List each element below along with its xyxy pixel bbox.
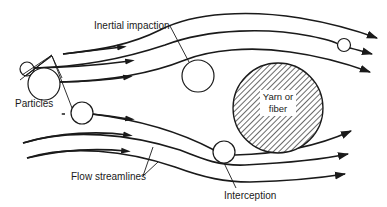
streamline-5-midarrow [23, 133, 128, 143]
label-interception: Interception [224, 190, 276, 201]
streamline-1-midarrow [63, 47, 122, 54]
fiber-label-line1: Yarn or [263, 91, 293, 102]
label-flow-streamlines: Flow streamlines [71, 171, 146, 182]
particle-large-left [28, 68, 60, 100]
particle-interception [213, 141, 235, 163]
streamline-2 [34, 31, 338, 68]
leader-interception [224, 163, 236, 188]
label-particles: Particles [15, 98, 53, 109]
particle-lower-left [71, 102, 93, 124]
fiber-label-line2: fiber [269, 103, 287, 114]
streamline-2-tail [350, 48, 372, 54]
label-inertial-impaction: Inertial impaction [94, 20, 170, 31]
streamline-3 [60, 49, 370, 82]
leader-inertial [170, 26, 189, 62]
particle-small-right [338, 39, 351, 52]
filtration-mechanism-diagram: Yarn or fiber Inertial impaction Particl… [0, 0, 387, 207]
streamline-4-midarrow [92, 114, 130, 119]
particle-inertial-impaction [182, 60, 214, 92]
